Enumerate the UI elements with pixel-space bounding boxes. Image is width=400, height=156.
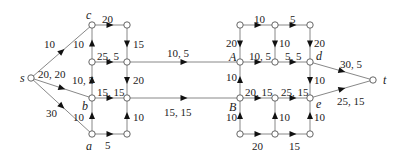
node-t [370, 77, 376, 83]
edge-label: 25, 15 [337, 95, 365, 107]
node-B [237, 95, 243, 101]
arrow-icon [58, 84, 67, 92]
node-label: A [228, 50, 237, 64]
node-m3 [124, 95, 130, 101]
node-s [28, 75, 34, 81]
node-r7 [272, 95, 278, 101]
labels-layer: 1020, 2030201025, 510, 515, 151051520101… [20, 8, 387, 153]
edge-label: 20 [252, 140, 264, 152]
edge-label: 5 [290, 13, 296, 25]
edge-label: 30, 5 [340, 58, 363, 70]
edge-label: 10 [279, 37, 291, 49]
edge-label: 5 [105, 139, 111, 151]
edge-label: 30 [46, 107, 58, 119]
node-label: s [20, 71, 25, 85]
arrow-icon [290, 131, 297, 137]
edge-label: 20 [314, 37, 326, 49]
node-r9 [307, 22, 313, 28]
edge-label: 20 [102, 13, 114, 25]
edge-label: 5, 5 [285, 50, 302, 62]
node-d [307, 59, 313, 65]
edge-label: 15 [289, 140, 301, 152]
edge-label: 10 [314, 111, 326, 123]
node-r1 [237, 22, 243, 28]
node-label: c [86, 8, 92, 22]
flow-network-diagram: 1020, 2030201025, 510, 515, 151051520101… [0, 0, 400, 156]
node-label: a [86, 139, 92, 153]
node-n2 [89, 59, 95, 65]
arrows-layer [57, 22, 346, 137]
node-m4 [124, 131, 130, 137]
node-label: B [229, 100, 237, 114]
node-A [237, 59, 243, 65]
arrow-icon [89, 112, 95, 119]
arrow-icon [181, 95, 188, 101]
node-label: b [82, 99, 88, 113]
edge-label: 10 [226, 71, 238, 83]
edge-label: 15, 15 [164, 106, 192, 118]
arrow-icon [124, 41, 130, 48]
edge-label: 15, 15 [97, 86, 125, 98]
edge-label: 10, 5 [249, 50, 272, 62]
node-label: t [383, 73, 387, 87]
arrow-icon [307, 77, 313, 84]
edge-label: 10 [73, 38, 85, 50]
edge-label: 10 [279, 111, 291, 123]
node-r12 [307, 131, 313, 137]
node-r5 [272, 22, 278, 28]
edge-label: 10 [44, 38, 56, 50]
edge-label: 20, 15 [245, 86, 273, 98]
node-label: e [316, 97, 322, 111]
edge-label: 25, 15 [281, 86, 309, 98]
arrow-icon [255, 131, 262, 137]
edge-label: 20 [226, 37, 238, 49]
edge-label: 20 [133, 74, 145, 86]
arrow-icon [124, 112, 130, 119]
edge-label: 10 [254, 13, 266, 25]
node-r8 [272, 131, 278, 137]
edge-label: 10 [133, 111, 145, 123]
arrow-icon [107, 131, 114, 137]
arrow-icon [237, 112, 243, 119]
node-label: d [316, 49, 323, 63]
flow-network-graph: 1020, 2030201025, 510, 515, 151051520101… [0, 0, 400, 156]
arrow-icon [338, 85, 346, 93]
arrow-icon [237, 41, 243, 48]
edge-label: 25, 5 [97, 50, 120, 62]
edge-label: 10 [314, 74, 326, 86]
arrow-icon [307, 41, 313, 48]
node-a [89, 131, 95, 137]
edge-label: 15 [133, 38, 145, 50]
arrow-icon [89, 40, 95, 47]
arrow-icon [237, 76, 243, 83]
node-m2 [124, 59, 130, 65]
arrow-icon [272, 41, 278, 48]
edge-label: 10, 5 [72, 74, 95, 86]
arrow-icon [124, 77, 130, 84]
edge-label: 20, 20 [38, 68, 66, 80]
node-r6 [272, 59, 278, 65]
edge-label: 10, 5 [167, 47, 190, 59]
node-m1 [124, 22, 130, 28]
node-c [89, 22, 95, 28]
arrow-icon [181, 59, 188, 65]
node-b [89, 95, 95, 101]
arrow-icon [307, 112, 313, 119]
arrow-icon [272, 112, 278, 119]
node-r4 [237, 131, 243, 137]
